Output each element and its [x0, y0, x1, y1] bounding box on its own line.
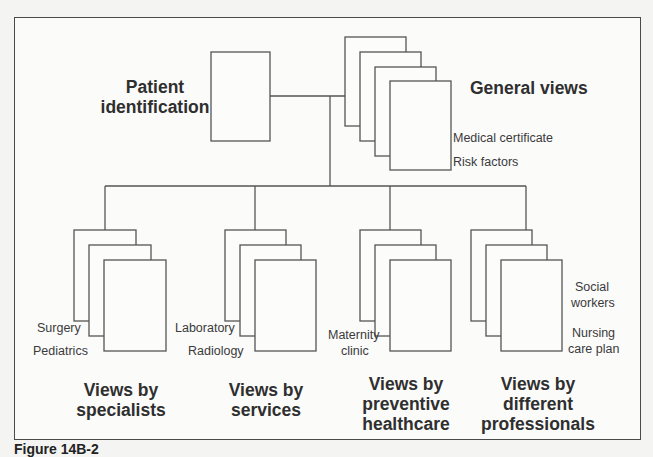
group-title-services: Views byservices: [216, 380, 316, 420]
item-maternity: Maternity: [328, 328, 379, 343]
item-clinic: clinic: [341, 344, 369, 359]
item-laboratory: Laboratory: [175, 321, 235, 336]
item-surgery: Surgery: [37, 321, 81, 336]
item-pediatrics: Pediatrics: [33, 344, 88, 359]
general-item-medical-certificate: Medical certificate: [453, 131, 553, 146]
group-title-specialists: Views byspecialists: [66, 380, 176, 420]
figure-caption: Figure 14B-2: [14, 441, 99, 457]
specialists-card-3: [104, 260, 166, 351]
general-item-risk-factors: Risk factors: [453, 155, 518, 170]
group-title-preventive: Views bypreventivehealthcare: [351, 374, 461, 434]
item-care-plan: care plan: [568, 342, 619, 357]
general-views-title: General views: [470, 78, 588, 98]
item-social: Social: [575, 280, 609, 295]
item-radiology: Radiology: [188, 344, 244, 359]
patient-card: [211, 52, 270, 141]
services-card-3: [255, 260, 316, 351]
patient-identification-title: Patient identification: [95, 77, 215, 117]
general-card-4: [390, 81, 451, 170]
item-workers: workers: [571, 296, 615, 311]
preventive-card-3: [390, 260, 451, 351]
group-title-professionals: Views bydifferentprofessionals: [478, 374, 598, 434]
professionals-card-3: [501, 260, 562, 351]
item-nursing: Nursing: [572, 326, 615, 341]
